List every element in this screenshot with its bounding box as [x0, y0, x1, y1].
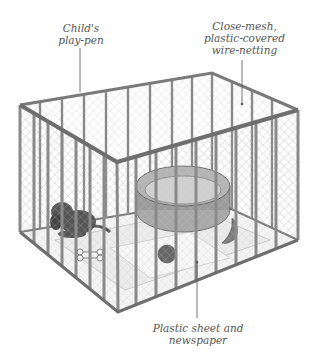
- label-mesh: Close-mesh, plastic-covered wire-netting: [202, 20, 287, 56]
- label-playpen: Child's play-pen: [52, 22, 110, 46]
- label-sheet: Plastic sheet and newspaper: [150, 322, 246, 346]
